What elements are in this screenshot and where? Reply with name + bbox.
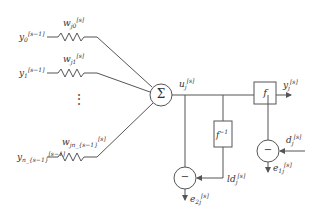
- error-1-label: e1j[s]: [273, 162, 292, 174]
- minus-symbol-2: −: [178, 172, 192, 182]
- activation-label: f: [254, 88, 276, 98]
- inverse-activation-label: f−1: [216, 129, 228, 140]
- input-1-label: y1[s−1]: [19, 67, 45, 79]
- input-0-label: y0[s−1]: [19, 31, 45, 43]
- diagram-canvas: [0, 0, 324, 219]
- weight-1-label: wj1[s]: [63, 53, 84, 65]
- ellipsis: ⋮: [72, 92, 86, 106]
- input-1-wire: [47, 69, 150, 92]
- weight-0-label: wj0[s]: [63, 17, 84, 29]
- output-label: yj[s]: [283, 79, 298, 91]
- inverse-desired-label: ldj[s]: [227, 173, 245, 185]
- input-n-label: yn_{s−1}[s−1]: [17, 151, 65, 163]
- u-label: uj[s]: [179, 78, 194, 90]
- weight-n-label: wjn_{s−1}[s]: [62, 136, 106, 148]
- desired-label: dj[s]: [286, 134, 301, 146]
- summation-symbol: Σ: [154, 88, 168, 100]
- minus-symbol-1: −: [261, 145, 275, 155]
- error-2-label: e2j[s]: [190, 193, 209, 205]
